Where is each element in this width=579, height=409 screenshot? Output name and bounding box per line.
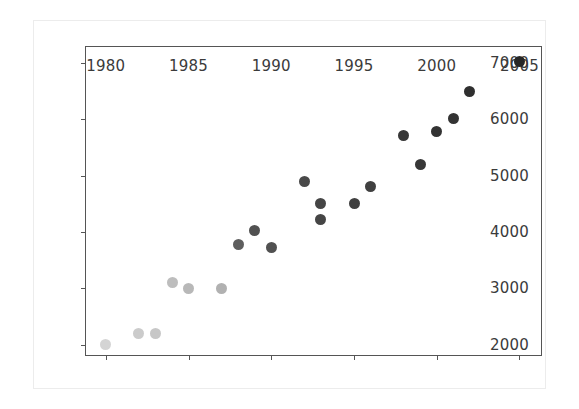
data-point (266, 242, 277, 253)
data-point (216, 283, 227, 294)
scatter-plot-figure: 200030004000500060007000 198019851990199… (0, 0, 579, 409)
data-point (299, 176, 310, 187)
data-point (233, 239, 244, 250)
data-point (249, 225, 260, 236)
plot-area: 200030004000500060007000 198019851990199… (85, 46, 542, 356)
x-axis-tick-mark (106, 355, 107, 360)
data-point (365, 181, 376, 192)
data-point (183, 283, 194, 294)
x-axis-tick-mark (519, 355, 520, 360)
x-axis-tick-mark (354, 355, 355, 360)
data-point (315, 198, 326, 209)
data-point (431, 126, 442, 137)
data-point (514, 56, 525, 67)
data-point (349, 198, 360, 209)
data-point (315, 214, 326, 225)
data-point (415, 159, 426, 170)
data-point (464, 86, 475, 97)
data-point (133, 328, 144, 339)
data-point (100, 339, 111, 350)
data-points-layer (86, 47, 541, 355)
data-point (448, 113, 459, 124)
x-axis-tick-mark (437, 355, 438, 360)
data-point (398, 130, 409, 141)
data-point (150, 328, 161, 339)
x-axis-tick-mark (189, 355, 190, 360)
x-axis-tick-mark (271, 355, 272, 360)
data-point (167, 277, 178, 288)
